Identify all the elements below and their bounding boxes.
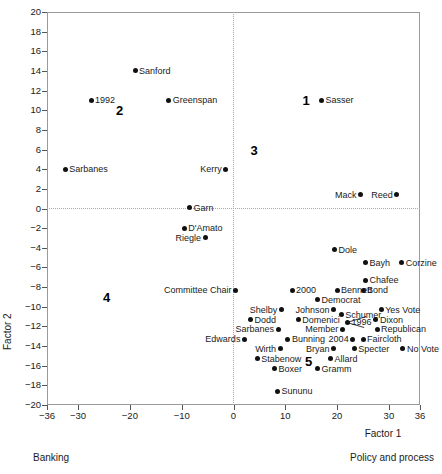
caption-left: Banking <box>33 452 69 463</box>
y-tick-mark <box>42 12 47 13</box>
data-point <box>319 98 324 103</box>
data-point-label: Greenspan <box>173 96 218 105</box>
y-tick-mark <box>42 189 47 190</box>
data-point <box>335 288 340 293</box>
data-point-label: Stabenow <box>261 354 301 363</box>
data-point-label: Bond <box>367 286 388 295</box>
y-tick-mark <box>42 287 47 288</box>
data-point-label: Boxer <box>278 364 302 373</box>
y-tick-mark <box>42 228 47 229</box>
data-point-label: Dixon <box>380 315 403 324</box>
data-point <box>379 307 384 312</box>
data-point-label: Domenici <box>302 315 340 324</box>
data-point <box>363 278 368 283</box>
data-point <box>63 167 68 172</box>
y-tick-label: −2 <box>30 223 41 233</box>
data-point-label: Garn <box>193 203 213 212</box>
y-tick-label: −16 <box>25 361 41 371</box>
y-tick-mark <box>42 209 47 210</box>
y-tick-mark <box>42 346 47 347</box>
y-tick-label: −8 <box>30 282 41 292</box>
zero-horizontal-reference-line <box>47 208 420 209</box>
data-point-label: Allard <box>334 354 357 363</box>
data-point-label: Shelby <box>250 305 278 314</box>
data-point <box>187 205 192 210</box>
data-point-label: No Vote <box>407 344 439 353</box>
data-point <box>242 337 247 342</box>
quadrant-label: 3 <box>251 143 258 156</box>
data-point-label: Riegle <box>175 233 201 242</box>
data-point-label: 2004 <box>329 335 349 344</box>
y-tick-mark <box>42 385 47 386</box>
y-tick-label: 18 <box>30 27 41 37</box>
data-point <box>223 167 228 172</box>
x-tick-label: 36 <box>415 411 426 421</box>
y-tick-label: −18 <box>25 381 41 391</box>
y-tick-label: 4 <box>36 164 41 174</box>
data-point <box>89 98 94 103</box>
y-tick-mark <box>42 91 47 92</box>
data-point <box>361 337 366 342</box>
x-tick-label: −36 <box>39 411 55 421</box>
x-tick-label: 0 <box>231 411 236 421</box>
data-point-label: 2000 <box>296 286 316 295</box>
y-tick-mark <box>42 169 47 170</box>
caption-right: Policy and process <box>350 452 434 463</box>
y-tick-mark <box>42 130 47 131</box>
y-tick-mark <box>42 267 47 268</box>
y-tick-mark <box>42 307 47 308</box>
y-tick-label: 20 <box>30 7 41 17</box>
data-point <box>340 327 345 332</box>
data-point-label: Specter <box>358 344 389 353</box>
y-tick-mark <box>42 51 47 52</box>
x-tick-label: −30 <box>70 411 86 421</box>
data-point-label: Wirth <box>255 344 276 353</box>
y-tick-label: 12 <box>30 86 41 96</box>
data-point <box>233 288 238 293</box>
data-point-label: Kerry <box>200 165 222 174</box>
y-tick-label: 6 <box>36 145 41 155</box>
x-axis-title: Factor 1 <box>365 428 402 439</box>
y-tick-label: −20 <box>25 400 41 410</box>
data-point-label: Reed <box>371 190 393 199</box>
data-point-label: Sasser <box>326 96 354 105</box>
data-point-label: Edwards <box>205 335 240 344</box>
data-point-label: D'Amato <box>188 224 222 233</box>
y-tick-label: 0 <box>36 204 41 214</box>
data-point <box>275 389 280 394</box>
data-point-label: Bryan <box>306 344 330 353</box>
data-point <box>345 320 350 325</box>
quadrant-label: 5 <box>305 354 312 367</box>
data-point-label: Chafee <box>370 276 399 285</box>
y-tick-mark <box>42 71 47 72</box>
data-point-label: Sununu <box>282 387 313 396</box>
data-point-label: Corzine <box>406 258 437 267</box>
data-point-label: Mack <box>335 190 357 199</box>
y-tick-label: −10 <box>25 302 41 312</box>
quadrant-label: 1 <box>302 94 309 107</box>
data-point <box>361 288 366 293</box>
data-point-label: Bayh <box>370 258 391 267</box>
y-tick-mark <box>42 326 47 327</box>
y-tick-mark <box>42 150 47 151</box>
y-tick-label: 2 <box>36 184 41 194</box>
y-tick-mark <box>42 248 47 249</box>
plot-area: 20181614121086420−2−4−6−8−10−12−14−16−18… <box>47 12 420 405</box>
data-point <box>375 327 380 332</box>
data-point <box>290 288 295 293</box>
y-tick-mark <box>42 32 47 33</box>
y-tick-label: 14 <box>30 66 41 76</box>
data-point-label: Republican <box>381 325 426 334</box>
data-point-label: Faircloth <box>367 335 402 344</box>
scatter-plot-figure: 20181614121086420−2−4−6−8−10−12−14−16−18… <box>0 0 442 474</box>
data-point-label: Democrat <box>321 295 360 304</box>
data-point-label: Gramm <box>321 364 351 373</box>
quadrant-label: 2 <box>116 104 123 117</box>
data-point-label: Member <box>305 325 338 334</box>
data-point-label: Bunning <box>292 335 325 344</box>
y-axis-title: Factor 2 <box>2 313 13 350</box>
data-point-label: Sarbanes <box>236 325 275 334</box>
y-tick-mark <box>42 366 47 367</box>
x-tick-label: 30 <box>384 411 395 421</box>
data-point <box>279 307 284 312</box>
